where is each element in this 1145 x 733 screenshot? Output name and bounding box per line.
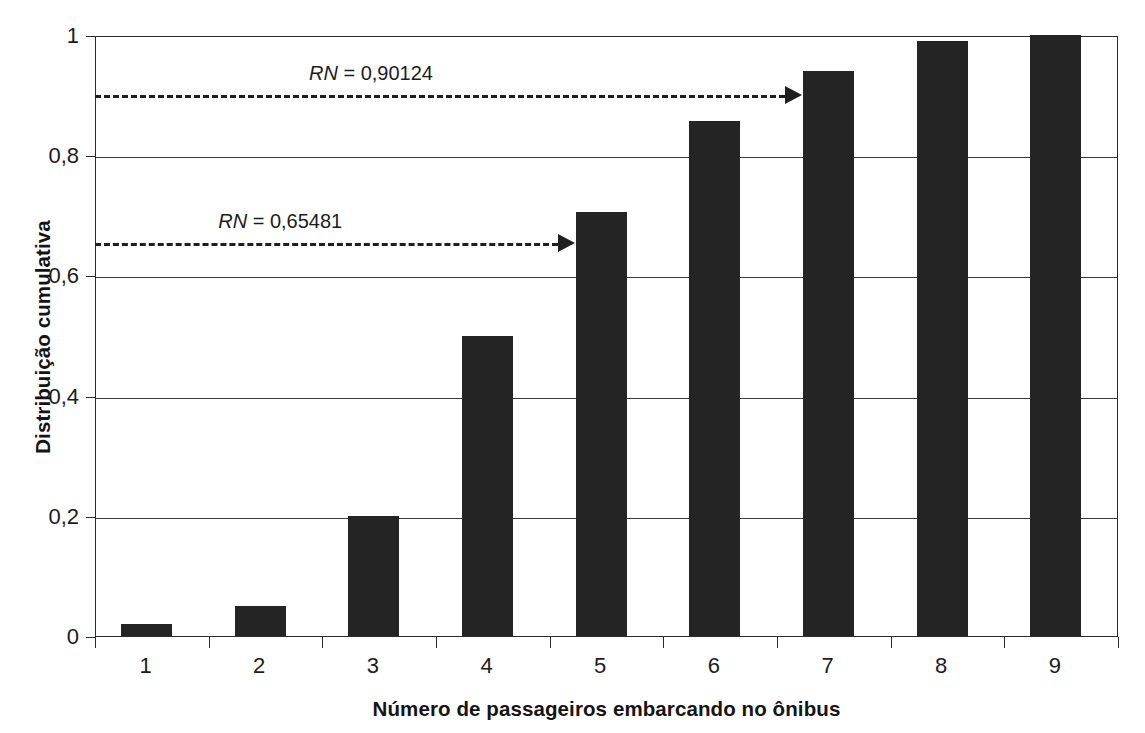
- bar: [917, 41, 968, 636]
- x-axis-tick-label: 6: [708, 655, 720, 677]
- y-axis-tick-mark: [86, 637, 95, 638]
- x-axis-tick-mark: [550, 637, 551, 648]
- x-axis-title: Número de passageiros embarcando no ônib…: [95, 697, 1118, 721]
- x-axis-tick-label: 1: [139, 655, 151, 677]
- y-axis-tick-label: 1: [0, 25, 79, 47]
- bar: [576, 212, 627, 636]
- y-axis-tick-mark: [86, 276, 95, 277]
- y-axis-tick-mark: [86, 517, 95, 518]
- y-axis-tick-label: 0,2: [0, 506, 79, 528]
- y-axis-tick-mark: [86, 397, 95, 398]
- annotation-arrow-head: [785, 86, 802, 104]
- bar: [689, 121, 740, 636]
- annotation-label-value: = 0,90124: [338, 62, 433, 84]
- x-axis-tick-mark: [209, 637, 210, 648]
- plot-area: [95, 36, 1118, 637]
- annotation-label-value: = 0,65481: [247, 210, 342, 232]
- annotation-label: RN = 0,65481: [218, 210, 342, 233]
- x-axis-tick-mark: [663, 637, 664, 648]
- x-axis-tick-mark: [891, 637, 892, 648]
- x-axis-tick-mark: [436, 637, 437, 648]
- x-axis-tick-label: 9: [1049, 655, 1061, 677]
- bar: [121, 624, 172, 636]
- annotation-dashed-line: [95, 243, 558, 246]
- x-axis-tick-label: 2: [253, 655, 265, 677]
- annotation-dashed-line: [95, 95, 785, 98]
- x-axis-tick-mark: [1004, 637, 1005, 648]
- y-axis-tick-mark: [86, 36, 95, 37]
- x-axis-tick-label: 8: [935, 655, 947, 677]
- annotation-arrow-head: [558, 234, 575, 252]
- x-axis-tick-label: 4: [480, 655, 492, 677]
- bar: [348, 516, 399, 636]
- y-axis-tick-label: 0: [0, 626, 79, 648]
- x-axis-tick-mark: [322, 637, 323, 648]
- bar: [235, 606, 286, 636]
- annotation-label-symbol: RN: [218, 210, 247, 232]
- annotation-label: RN = 0,90124: [309, 62, 433, 85]
- bar: [1030, 35, 1081, 636]
- bar: [803, 71, 854, 636]
- bar: [462, 336, 513, 637]
- x-axis-tick-mark: [1118, 637, 1119, 648]
- x-axis-tick-label: 3: [367, 655, 379, 677]
- x-axis-tick-mark: [777, 637, 778, 648]
- x-axis-tick-label: 7: [821, 655, 833, 677]
- annotation-label-symbol: RN: [309, 62, 338, 84]
- y-axis-tick-label: 0,8: [0, 145, 79, 167]
- y-axis-title: Distribuição cumulativa: [31, 220, 55, 454]
- x-axis-tick-mark: [95, 637, 96, 648]
- y-axis-tick-mark: [86, 156, 95, 157]
- x-axis-tick-label: 5: [594, 655, 606, 677]
- chart-figure: 00,20,40,60,81123456789 RN = 0,90124RN =…: [0, 0, 1145, 733]
